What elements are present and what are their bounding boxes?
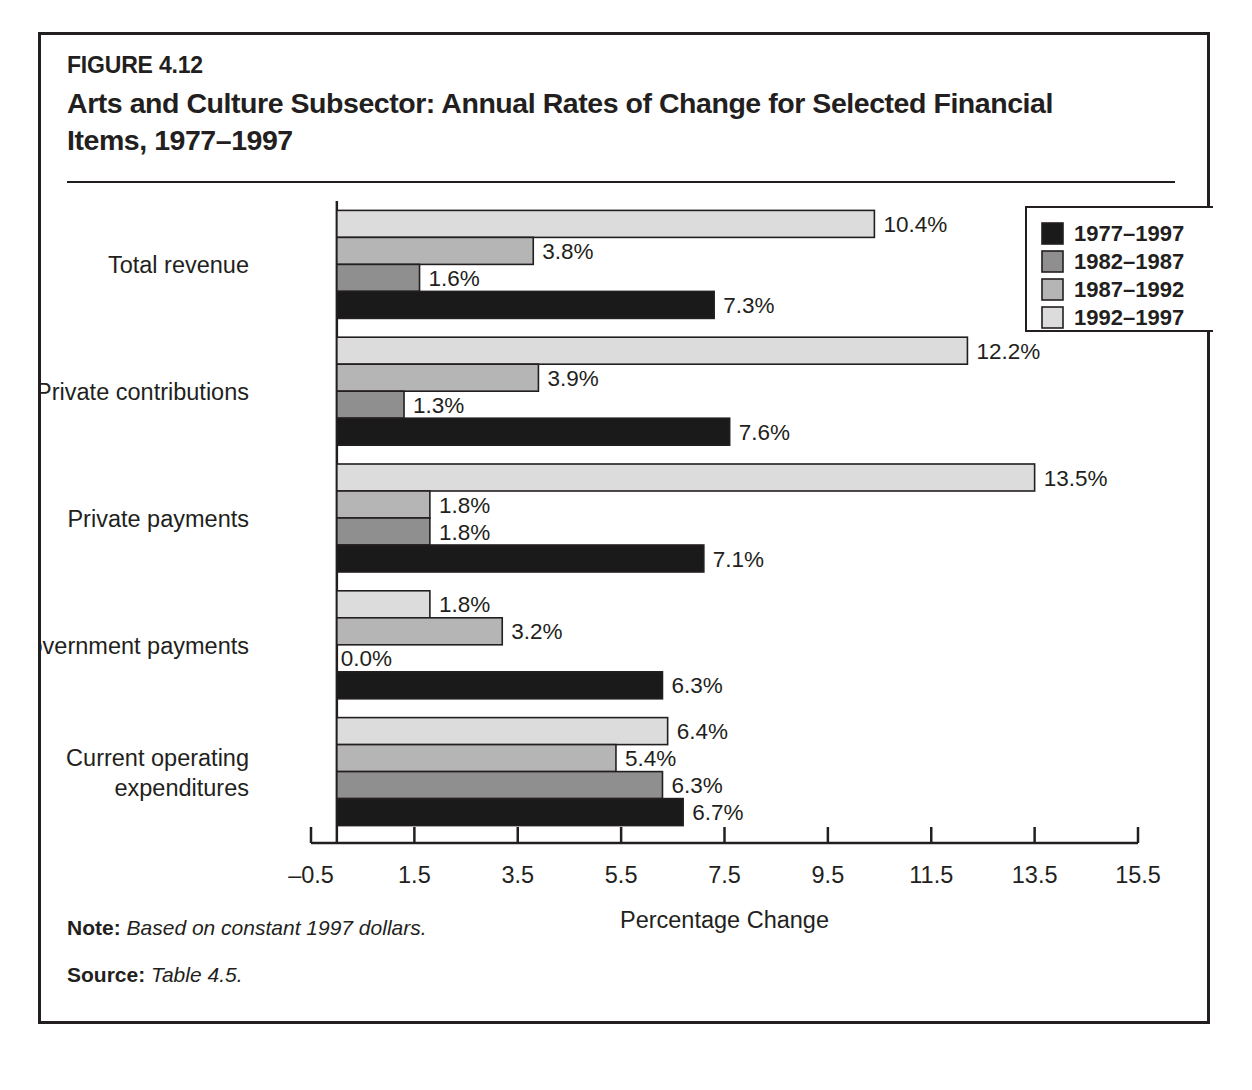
bar — [337, 210, 875, 237]
figure-container: FIGURE 4.12 Arts and Culture Subsector: … — [38, 32, 1210, 1024]
bar-value-label: 1.8% — [439, 520, 490, 545]
source-text: Table 4.5. — [151, 963, 242, 986]
bar-value-label: 13.5% — [1044, 466, 1108, 491]
bar-value-label: 3.8% — [542, 239, 593, 264]
note-line: Note: Based on constant 1997 dollars. — [67, 917, 1147, 938]
legend-label: 1977–1997 — [1074, 221, 1184, 246]
bar-value-label: 1.8% — [439, 493, 490, 518]
category-axis-label: Government payments — [41, 633, 249, 659]
bar — [337, 337, 968, 364]
x-axis-tick-label: 9.5 — [812, 862, 845, 888]
bar — [337, 391, 404, 418]
x-axis-tick-label: –0.5 — [288, 862, 334, 888]
x-axis-tick-label: 5.5 — [605, 862, 638, 888]
bar-value-label: 1.8% — [439, 592, 490, 617]
bar — [337, 518, 430, 545]
bar-value-label: 10.4% — [883, 212, 947, 237]
bar — [337, 418, 730, 445]
bar-value-label: 7.3% — [723, 293, 774, 318]
bar — [337, 799, 683, 826]
bar-value-label: 7.6% — [739, 420, 790, 445]
category-axis-label: Private payments — [67, 506, 249, 532]
legend-label: 1982–1987 — [1074, 249, 1184, 274]
legend-swatch — [1042, 307, 1063, 328]
x-axis-tick-label: 7.5 — [708, 862, 741, 888]
bar — [337, 264, 420, 291]
bar-value-label: 7.1% — [713, 547, 764, 572]
bar-value-label: 6.4% — [677, 719, 728, 744]
legend-swatch — [1042, 251, 1063, 272]
note-label: Note: — [67, 916, 121, 939]
bar — [337, 291, 714, 318]
bar-value-label: 5.4% — [625, 746, 676, 771]
legend-label: 1992–1997 — [1074, 305, 1184, 330]
bar — [337, 364, 539, 391]
figure-footnotes: Note: Based on constant 1997 dollars. So… — [67, 917, 1147, 1011]
x-axis-tick-label: 11.5 — [909, 862, 953, 888]
legend-swatch — [1042, 279, 1063, 300]
x-axis-tick-label: 1.5 — [398, 862, 431, 888]
bar-value-label: 12.2% — [976, 339, 1040, 364]
bar-value-label: 3.2% — [511, 619, 562, 644]
bar — [337, 618, 502, 645]
x-axis-tick-label: 15.5 — [1115, 862, 1161, 888]
bar-chart-svg: –0.51.53.55.57.59.511.513.515.5Percentag… — [41, 35, 1213, 1027]
note-text: Based on constant 1997 dollars. — [127, 916, 427, 939]
x-axis-tick-label: 3.5 — [501, 862, 534, 888]
legend-swatch — [1042, 223, 1063, 244]
bar — [337, 545, 704, 572]
legend-label: 1987–1992 — [1074, 277, 1184, 302]
bar — [337, 464, 1035, 491]
bar-value-label: 1.3% — [413, 393, 464, 418]
bar — [337, 591, 430, 618]
category-axis-label: Current operating — [66, 745, 249, 771]
bar-value-label: 6.3% — [671, 773, 722, 798]
category-axis-label: Private contributions — [41, 379, 249, 405]
bar-value-label: 0.0% — [341, 646, 392, 671]
bar — [337, 772, 663, 799]
bar — [337, 237, 533, 264]
bar-value-label: 3.9% — [547, 366, 598, 391]
bar — [337, 491, 430, 518]
bar — [337, 745, 616, 772]
category-axis-label: expenditures — [114, 775, 249, 801]
bar-value-label: 1.6% — [429, 266, 480, 291]
source-line: Source: Table 4.5. — [67, 964, 1147, 985]
category-axis-label: Total revenue — [108, 252, 249, 278]
bar-value-label: 6.3% — [671, 673, 722, 698]
bar-value-label: 6.7% — [692, 800, 743, 825]
chart-plot-area: –0.51.53.55.57.59.511.513.515.5Percentag… — [41, 35, 1213, 1027]
bar — [337, 672, 663, 699]
bar — [337, 718, 668, 745]
x-axis-tick-label: 13.5 — [1012, 862, 1058, 888]
source-label: Source: — [67, 963, 145, 986]
